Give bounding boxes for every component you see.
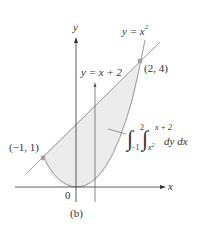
inner-upper-limit: x + 2 <box>155 124 172 132</box>
parabola-label: y = x2 <box>122 26 148 37</box>
integrand: dy dx <box>164 136 188 147</box>
x-axis-label: x <box>168 181 173 192</box>
origin-label: 0 <box>65 190 71 201</box>
y-axis-arrow-icon <box>74 37 78 43</box>
x-axis-arrow-icon <box>160 185 166 189</box>
line-label: y = x + 2 <box>81 67 122 78</box>
point-neg1-1 <box>41 156 46 161</box>
point-2-4-label: (2, 4) <box>144 63 168 74</box>
y-axis-label: y <box>73 22 78 33</box>
vertical-sample-arrow-icon <box>94 82 97 87</box>
inner-lower-limit: x2 <box>148 144 155 152</box>
diagram-canvas: ∫ ∫ <box>0 0 200 232</box>
point-neg1-1-label: (−1, 1) <box>9 142 39 153</box>
figure-caption: (b) <box>70 208 83 219</box>
shaded-region <box>43 61 140 187</box>
outer-lower-limit: −1 <box>131 144 140 152</box>
point-2-4 <box>138 59 143 64</box>
outer-upper-limit: 2 <box>140 124 144 132</box>
